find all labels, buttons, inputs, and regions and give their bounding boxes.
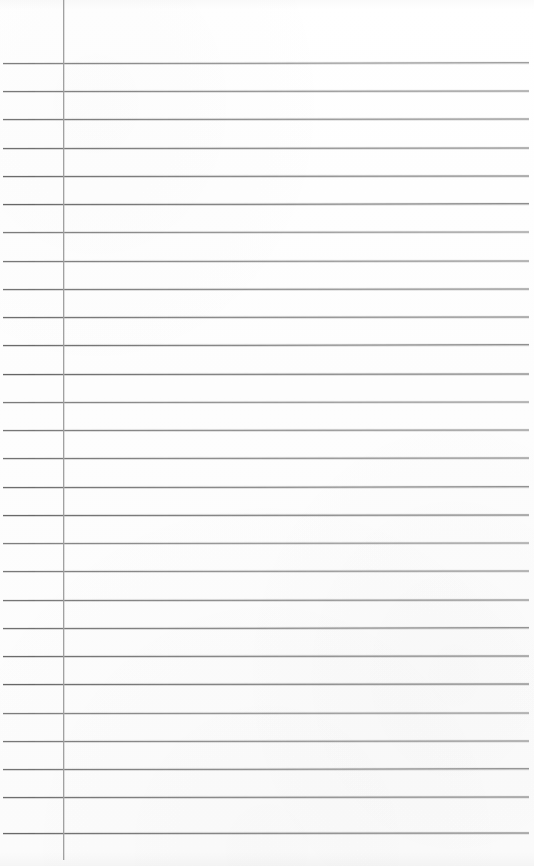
writing-area[interactable] [0, 0, 534, 866]
rule-line [3, 627, 529, 629]
rule-line [3, 118, 529, 120]
rule-line [3, 600, 529, 601]
rule-line [3, 832, 529, 834]
rule-line [3, 571, 529, 572]
rule-line [3, 796, 529, 798]
rule-line [3, 260, 529, 262]
rule-line [3, 713, 529, 714]
rule-line [3, 430, 529, 431]
rule-line [3, 176, 529, 177]
rule-line [3, 401, 529, 403]
rule-line [3, 655, 529, 657]
rule-line [3, 317, 529, 318]
rule-line [3, 231, 529, 233]
rule-line [3, 683, 529, 685]
rule-line [3, 373, 529, 375]
rule-line [3, 90, 529, 92]
notebook-page [0, 0, 534, 866]
rule-line [3, 148, 529, 149]
rule-line [3, 768, 529, 770]
rule-line [3, 458, 529, 459]
rule-line [3, 62, 529, 64]
rule-line [3, 203, 529, 205]
rule-line [3, 344, 529, 346]
rule-line [3, 486, 529, 488]
rule-line [3, 514, 529, 516]
rule-line [3, 542, 529, 544]
rule-line [3, 289, 529, 290]
rule-line [3, 741, 529, 742]
vertical-margin-line [63, 0, 64, 860]
